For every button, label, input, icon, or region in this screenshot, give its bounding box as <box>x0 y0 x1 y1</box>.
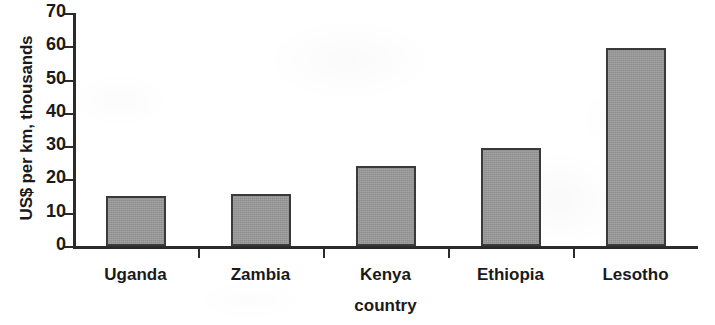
x-tick-mark <box>573 247 575 258</box>
y-axis-title: US$ per km, thousands <box>17 13 37 243</box>
y-tick-label: 60 <box>46 34 66 55</box>
y-tick-label: 70 <box>46 1 66 22</box>
x-label-lesotho: Lesotho <box>573 265 698 285</box>
x-axis-title: country <box>323 296 448 316</box>
bar-zambia <box>231 194 291 246</box>
y-tick-label: 20 <box>46 167 66 188</box>
y-tick-label: 50 <box>46 68 66 89</box>
y-tick-label: 30 <box>46 134 66 155</box>
x-tick-mark <box>198 247 200 258</box>
bar-chart-figure: US$ per km, thousands 010203040506070 Ug… <box>0 0 715 325</box>
x-label-ethiopia: Ethiopia <box>448 265 573 285</box>
plot-area: 010203040506070 UgandaZambiaKenyaEthiopi… <box>73 13 698 248</box>
bar-ethiopia <box>481 148 541 246</box>
x-tick-mark <box>323 247 325 258</box>
x-label-uganda: Uganda <box>73 265 198 285</box>
x-axis-line <box>73 246 698 249</box>
y-tick-label: 0 <box>56 234 66 255</box>
y-tick-label: 10 <box>46 201 66 222</box>
x-label-zambia: Zambia <box>198 265 323 285</box>
bar-uganda <box>106 196 166 246</box>
y-tick-label: 40 <box>46 101 66 122</box>
bar-kenya <box>356 166 416 246</box>
x-tick-mark <box>448 247 450 258</box>
bar-lesotho <box>606 48 666 246</box>
x-label-kenya: Kenya <box>323 265 448 285</box>
